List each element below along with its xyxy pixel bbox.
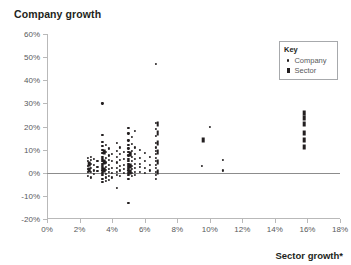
- data-point-company: [116, 167, 118, 169]
- data-point-company: [108, 168, 110, 170]
- data-point-company: [90, 176, 92, 178]
- data-point-company: [122, 158, 124, 160]
- chart-title: Company growth: [14, 8, 101, 20]
- y-tick-label: -10%: [21, 191, 40, 200]
- data-point-company: [131, 175, 133, 177]
- data-point-sector: [156, 169, 159, 174]
- x-tick: [242, 219, 243, 223]
- x-tick: [112, 219, 113, 223]
- data-point-company: [127, 144, 129, 146]
- y-tick: [43, 150, 47, 151]
- y-tick-label: 0%: [28, 168, 40, 177]
- y-tick: [43, 57, 47, 58]
- data-point-sector: [129, 163, 132, 168]
- y-tick-label: -20%: [21, 215, 40, 224]
- data-point-sector: [156, 122, 159, 127]
- y-tick-label: 60%: [24, 30, 40, 39]
- legend-label-company: Company: [294, 56, 326, 65]
- data-point-company: [105, 180, 107, 182]
- data-point-sector: [303, 122, 306, 127]
- x-tick-label: 18%: [332, 225, 348, 234]
- data-point-company: [139, 149, 141, 151]
- x-tick-label: 10%: [202, 225, 218, 234]
- chart-root: Company growth 60%50%40%30%20%10%0%-10%-…: [0, 0, 351, 265]
- data-point-company: [139, 166, 141, 168]
- data-point-company: [111, 160, 113, 162]
- data-point-company: [201, 165, 203, 167]
- data-point-company: [96, 160, 98, 162]
- data-point-company: [148, 164, 150, 166]
- data-point-company: [119, 165, 121, 167]
- data-point-company: [101, 145, 103, 147]
- x-tick: [80, 219, 81, 223]
- data-point-company: [144, 167, 146, 169]
- data-point-company: [119, 146, 121, 148]
- data-point-company: [96, 166, 98, 168]
- data-point-sector: [303, 138, 306, 143]
- data-point-sector: [88, 161, 91, 166]
- x-tick: [275, 219, 276, 223]
- data-point-sector: [129, 169, 132, 174]
- data-point-company: [116, 142, 118, 144]
- data-point-company: [93, 169, 95, 171]
- x-tick-label: 12%: [234, 225, 250, 234]
- data-point-company: [155, 157, 157, 159]
- data-point-sector: [156, 160, 159, 165]
- legend: Key Company Sector: [279, 41, 338, 80]
- data-point-company: [93, 158, 95, 160]
- data-point-company: [101, 174, 103, 176]
- data-point-sector: [88, 168, 91, 173]
- legend-title: Key: [284, 45, 333, 54]
- sector-marker-icon: [287, 68, 290, 74]
- data-point-company: [108, 175, 110, 177]
- data-point-company: [87, 175, 89, 177]
- data-point-company: [105, 173, 107, 175]
- x-tick: [210, 219, 211, 223]
- y-tick-label: 20%: [24, 122, 40, 131]
- data-point-company: [127, 174, 129, 176]
- data-point-company: [93, 164, 95, 166]
- data-point-sector: [202, 138, 205, 143]
- data-point-company: [155, 128, 157, 130]
- data-point-company: [127, 202, 129, 204]
- data-point-sector: [156, 149, 159, 154]
- data-point-company: [139, 157, 141, 159]
- y-tick-label: 10%: [24, 145, 40, 154]
- data-point-company: [108, 164, 110, 166]
- data-point-company: [144, 152, 146, 154]
- x-axis-line: [47, 218, 340, 219]
- data-point-company: [131, 136, 133, 138]
- data-point-company: [101, 102, 103, 104]
- data-point-company: [144, 160, 146, 162]
- data-point-sector: [303, 131, 306, 136]
- x-tick: [145, 219, 146, 223]
- data-point-company: [116, 174, 118, 176]
- data-point-company: [139, 162, 141, 164]
- data-point-company: [116, 155, 118, 157]
- data-point-company: [127, 132, 129, 134]
- x-tick-label: 14%: [267, 225, 283, 234]
- x-tick-label: 4%: [106, 225, 118, 234]
- data-point-company: [87, 157, 89, 159]
- data-point-company: [101, 134, 103, 136]
- x-tick-label: 0%: [41, 225, 53, 234]
- data-point-company: [122, 168, 124, 170]
- data-point-company: [101, 177, 103, 179]
- data-point-company: [134, 146, 136, 148]
- x-tick: [340, 219, 341, 223]
- data-point-company: [209, 125, 211, 127]
- data-point-company: [122, 164, 124, 166]
- x-tick-label: 6%: [139, 225, 151, 234]
- y-tick-label: 40%: [24, 76, 40, 85]
- x-tick-label: 16%: [299, 225, 315, 234]
- data-point-company: [155, 63, 157, 65]
- data-point-company: [134, 174, 136, 176]
- data-point-company: [127, 177, 129, 179]
- data-point-company: [108, 159, 110, 161]
- x-tick: [47, 219, 48, 223]
- legend-item-sector: Sector: [284, 66, 333, 75]
- y-axis-line: [47, 34, 48, 219]
- company-marker-icon: [287, 59, 289, 61]
- data-point-company: [108, 179, 110, 181]
- data-point-company: [155, 146, 157, 148]
